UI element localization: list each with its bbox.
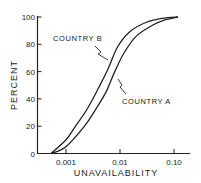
x-tick-label: 0.10 <box>166 158 182 167</box>
series-label-country-b: COUNTRY B <box>53 34 102 43</box>
y-tick-label: 100 <box>22 13 36 22</box>
y-tick-label: 0 <box>31 150 36 159</box>
y-tick-label: 80 <box>26 40 35 49</box>
y-axis-title: PERCENT <box>9 60 19 110</box>
y-tick-label: 60 <box>26 68 35 77</box>
x-ticks: 0.0010.010.10 <box>56 149 182 167</box>
y-tick-label: 40 <box>26 95 35 104</box>
x-tick-label: 0.01 <box>112 158 128 167</box>
x-tick-label: 0.001 <box>56 158 77 167</box>
line-chart: 020406080100 0.0010.010.10 COUNTRY B COU… <box>0 0 201 183</box>
y-ticks: 020406080100 <box>22 13 42 159</box>
leader-line-country-b <box>95 46 108 60</box>
y-tick-label: 20 <box>26 122 35 131</box>
series-label-country-a: COUNTRY A <box>122 97 171 106</box>
leader-line-country-a <box>118 79 126 94</box>
x-axis-title: UNAVAILABILITY <box>74 168 159 178</box>
